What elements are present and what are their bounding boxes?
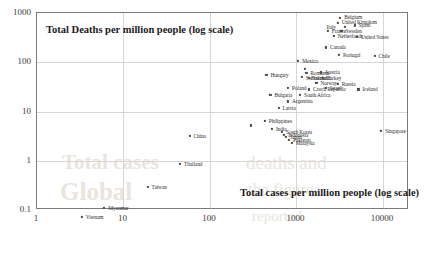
data-point[interactable]	[271, 128, 273, 130]
data-point-label: Poland	[292, 85, 306, 91]
data-point[interactable]	[325, 87, 327, 89]
data-point[interactable]	[281, 131, 283, 133]
data-point-label: Argentina	[292, 98, 313, 104]
data-point[interactable]	[315, 82, 317, 84]
y-tick-label: 10	[0, 106, 31, 116]
x-tick-label: 10000	[371, 213, 394, 223]
y-tick-label: 100	[0, 56, 31, 66]
data-point[interactable]	[301, 76, 303, 78]
data-point[interactable]	[354, 24, 356, 26]
data-point-label: Canada	[330, 44, 346, 50]
data-point-label: China	[194, 133, 206, 139]
data-point-label: United States	[361, 34, 389, 40]
data-point-label: Singapore	[385, 128, 406, 134]
data-point-label: South Africa	[304, 92, 330, 98]
data-point-label: Malaysia	[296, 140, 315, 146]
data-point[interactable]	[81, 216, 83, 218]
gridline-horizontal	[37, 62, 407, 63]
data-point[interactable]	[265, 74, 267, 76]
data-point-label: Vietnam	[86, 214, 104, 220]
data-point[interactable]	[305, 72, 307, 74]
data-point-label: Portugal	[343, 52, 360, 58]
y-axis-title: Total Deaths per million people (log sca…	[46, 24, 233, 35]
data-point[interactable]	[308, 88, 310, 90]
data-point-label: Taiwan	[152, 184, 167, 190]
data-point[interactable]	[269, 94, 271, 96]
plot-area: BelgiumUnited KingdomItalySpainSwedenFra…	[36, 12, 408, 209]
data-point[interactable]	[250, 124, 252, 126]
data-point[interactable]	[319, 71, 321, 73]
data-point[interactable]	[287, 87, 289, 89]
data-point[interactable]	[297, 60, 299, 62]
scatter-chart: Total cases Global deaths and the figure…	[0, 0, 441, 255]
data-point[interactable]	[321, 77, 323, 79]
x-tick-label: 1000	[286, 213, 304, 223]
data-point[interactable]	[285, 136, 287, 138]
data-point-label: Bulgaria	[274, 92, 292, 98]
data-point[interactable]	[288, 138, 290, 140]
x-tick-label: 100	[202, 213, 216, 223]
gridline-vertical	[383, 13, 384, 208]
x-axis-title: Total cases per million people (log scal…	[240, 187, 419, 198]
data-point-label: Myanmar	[108, 205, 128, 211]
data-point[interactable]	[147, 185, 149, 187]
data-point-label: Chile	[379, 53, 390, 59]
data-point[interactable]	[325, 46, 327, 48]
data-point-label: Thailand	[184, 161, 202, 167]
data-point[interactable]	[333, 35, 335, 37]
data-point-label: Hungary	[270, 72, 288, 78]
data-point-label: Iceland	[362, 86, 377, 92]
data-point[interactable]	[264, 120, 266, 122]
gridline-vertical	[123, 13, 124, 208]
data-point-label: Mexico	[302, 58, 318, 64]
gridline-vertical	[296, 13, 297, 208]
data-point[interactable]	[103, 207, 105, 209]
data-point[interactable]	[179, 163, 181, 165]
x-tick-label: 1	[34, 213, 39, 223]
data-point[interactable]	[338, 54, 340, 56]
data-point[interactable]	[373, 55, 375, 57]
data-point[interactable]	[380, 130, 382, 132]
gridline-horizontal	[37, 112, 407, 113]
gridline-horizontal	[37, 161, 407, 162]
data-point[interactable]	[308, 77, 310, 79]
data-point[interactable]	[287, 100, 289, 102]
y-tick-label: 1000	[0, 7, 31, 17]
data-point[interactable]	[299, 94, 301, 96]
data-point[interactable]	[188, 135, 190, 137]
data-point[interactable]	[304, 68, 306, 70]
data-point[interactable]	[337, 22, 339, 24]
data-point[interactable]	[291, 142, 293, 144]
data-point[interactable]	[357, 88, 359, 90]
x-tick-label: 10	[118, 213, 127, 223]
y-tick-label: 1	[0, 155, 31, 165]
data-point[interactable]	[277, 107, 279, 109]
data-point-label: Philippines	[269, 118, 292, 124]
y-tick-label: 0.1	[0, 204, 31, 214]
data-point-label: Israel	[330, 85, 341, 91]
data-point-label: Latvia	[283, 105, 296, 111]
data-point-label: Netherlands	[338, 33, 363, 39]
data-point[interactable]	[356, 36, 358, 38]
gridline-vertical	[210, 13, 211, 208]
data-point[interactable]	[327, 30, 329, 32]
